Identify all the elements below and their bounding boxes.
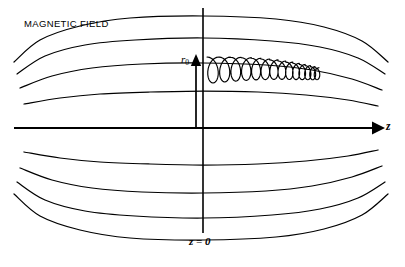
fieldline-upper-3 — [17, 38, 385, 74]
fieldline-upper-2 — [20, 63, 382, 90]
r0-axis-label: r0 — [181, 54, 189, 67]
fieldline-lower-3 — [17, 182, 385, 218]
particle-trajectory-group — [207, 57, 320, 83]
fieldline-lower-2 — [20, 166, 382, 193]
z-axis-label: z — [386, 121, 390, 133]
r0-arrow-head — [191, 54, 201, 66]
axes-group — [14, 8, 385, 233]
fieldline-lower-1 — [24, 150, 378, 165]
fieldline-lower-4 — [14, 194, 388, 240]
fieldline-upper-1 — [24, 91, 378, 106]
midplane-label: z = 0 — [189, 236, 211, 247]
magnetic-mirror-figure: MAGNETIC FIELD r0 z z = 0 — [0, 0, 405, 267]
figure-canvas — [0, 0, 405, 267]
z-axis-arrowhead — [372, 122, 385, 135]
magnetic-field-label: MAGNETIC FIELD — [24, 19, 109, 29]
r0-subscript: 0 — [185, 58, 189, 67]
helical-gyro-orbit — [207, 57, 320, 83]
